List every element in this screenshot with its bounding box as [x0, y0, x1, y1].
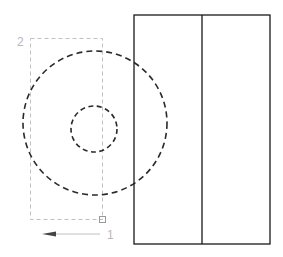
point-label-2: 2: [17, 35, 24, 49]
inner-circle[interactable]: [71, 106, 117, 152]
outer-circle[interactable]: [23, 51, 167, 195]
arrow-head-icon: [42, 232, 56, 237]
drawing-canvas[interactable]: 2 1: [0, 0, 283, 257]
point-label-1: 1: [107, 228, 114, 242]
selection-window: [31, 39, 103, 220]
